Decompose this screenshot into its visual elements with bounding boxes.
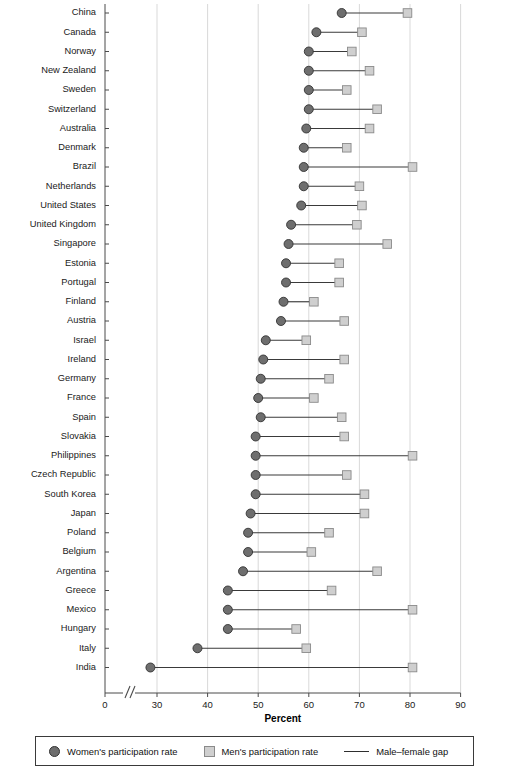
men-marker-austria [340,317,349,326]
y-label-ireland: Ireland [68,354,96,364]
men-marker-italy [302,644,311,653]
y-label-canada: Canada [63,27,96,37]
women-marker-portugal [282,278,291,287]
men-marker-philippines [408,451,417,460]
men-marker-ireland [340,355,349,364]
legend-label-men: Men's participation rate [222,746,319,757]
circle-marker-icon [49,746,60,757]
y-label-belgium: Belgium [62,546,96,556]
x-tick-label-0: 0 [102,699,107,710]
men-marker-finland [310,297,319,306]
men-marker-netherlands [355,182,364,191]
y-label-switzerland: Switzerland [48,104,96,114]
women-marker-norway [304,47,313,56]
y-label-japan: Japan [71,508,96,518]
x-tick-label-80: 80 [405,699,416,710]
men-marker-new-zealand [365,66,374,75]
women-marker-canada [312,28,321,37]
y-label-poland: Poland [67,527,96,537]
women-marker-australia [302,124,311,133]
men-marker-united-kingdom [353,220,362,229]
women-marker-belgium [244,548,253,557]
x-tick-label-70: 70 [354,699,365,710]
women-marker-poland [244,528,253,537]
y-label-greece: Greece [66,585,97,595]
x-tick-label-90: 90 [455,699,466,710]
y-label-united-kingdom: United Kingdom [30,219,96,229]
y-label-brazil: Brazil [73,161,96,171]
men-marker-france [310,394,319,403]
y-label-netherlands: Netherlands [46,181,96,191]
y-label-philippines: Philippines [51,450,96,460]
women-marker-india [146,663,155,672]
axis-break-gap [123,692,135,695]
y-label-china: China [72,7,97,17]
men-marker-south-korea [360,490,369,499]
women-marker-israel [261,336,270,345]
men-marker-canada [358,28,367,37]
legend-item-gap: Male–female gap [344,746,448,757]
women-marker-ireland [259,355,268,364]
square-marker-icon [204,746,215,757]
men-marker-australia [365,124,374,133]
line-marker-icon [344,751,369,752]
men-marker-norway [348,47,357,56]
men-marker-estonia [335,259,344,268]
women-marker-slovakia [251,432,260,441]
y-label-denmark: Denmark [58,142,96,152]
participation-rate-chart: 030405060708090PercentChinaCanadaNorwayN… [0,0,509,778]
women-marker-argentina [239,567,248,576]
legend-item-women: Women's participation rate [49,746,178,757]
women-marker-france [254,394,263,403]
women-marker-estonia [282,259,291,268]
men-marker-hungary [292,625,301,634]
y-label-finland: Finland [66,296,97,306]
y-label-slovakia: Slovakia [61,431,97,441]
men-marker-japan [360,509,369,518]
x-tick-label-30: 30 [152,699,163,710]
y-label-south-korea: South Korea [44,489,97,499]
men-marker-portugal [335,278,344,287]
legend-item-men: Men's participation rate [204,746,319,757]
women-marker-greece [223,586,232,595]
y-label-czech-republic: Czech Republic [31,469,96,479]
women-marker-finland [279,297,288,306]
men-marker-argentina [373,567,382,576]
y-label-hungary: Hungary [61,623,96,633]
y-label-france: France [67,392,96,402]
women-marker-austria [276,317,285,326]
women-marker-hungary [223,625,232,634]
men-marker-slovakia [340,432,349,441]
legend-label-gap: Male–female gap [376,746,448,757]
y-label-united-states: United States [40,200,96,210]
men-marker-greece [327,586,336,595]
y-label-india: India [76,662,97,672]
y-label-italy: Italy [79,643,96,653]
women-marker-china [337,9,346,18]
men-marker-czech-republic [342,471,351,480]
men-marker-switzerland [373,105,382,114]
women-marker-czech-republic [251,471,260,480]
y-label-singapore: Singapore [54,238,96,248]
chart-plot-area: 030405060708090PercentChinaCanadaNorwayN… [0,0,509,778]
women-marker-united-kingdom [287,220,296,229]
men-marker-singapore [383,240,392,249]
men-marker-united-states [358,201,367,210]
women-marker-denmark [299,143,308,152]
men-marker-poland [325,528,334,537]
women-marker-south-korea [251,490,260,499]
x-axis-title: Percent [264,713,301,724]
y-label-argentina: Argentina [56,566,97,576]
men-marker-belgium [307,548,316,557]
women-marker-switzerland [304,105,313,114]
x-tick-label-50: 50 [253,699,264,710]
women-marker-netherlands [299,182,308,191]
y-label-sweden: Sweden [62,84,96,94]
y-label-estonia: Estonia [65,258,97,268]
y-label-germany: Germany [58,373,97,383]
men-marker-israel [302,336,311,345]
y-label-australia: Australia [60,123,97,133]
y-label-israel: Israel [73,335,96,345]
men-marker-denmark [342,143,351,152]
men-marker-mexico [408,605,417,614]
